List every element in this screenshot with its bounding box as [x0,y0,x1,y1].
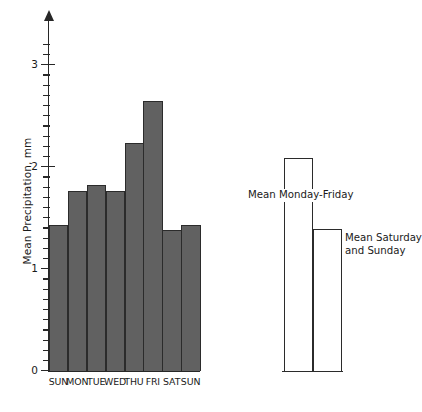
summary-bar-weekend [313,229,342,371]
summary-label-weekend-line1: Mean Saturday [345,232,422,245]
summary-baseline [282,371,343,373]
summary-label-weekend-line2: and Sunday [345,245,406,258]
summary-label-weekday: Mean Monday-Friday [247,189,355,202]
